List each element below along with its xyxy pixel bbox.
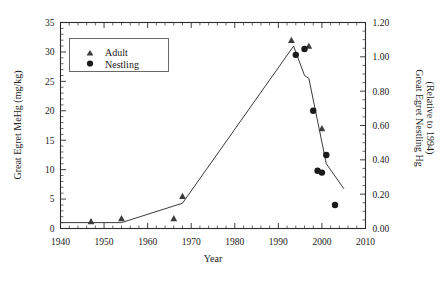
y-axis-right-ticklabels: 0.000.200.400.600.801.001.20 xyxy=(373,18,390,234)
y-axis-left-ticks xyxy=(61,23,67,229)
y-ticklabel: 20 xyxy=(45,106,55,116)
legend-nestling-circle-icon xyxy=(87,60,93,66)
y-ticklabel: 0 xyxy=(50,224,55,234)
data-point-nestling xyxy=(319,169,325,175)
chart-svg: 19401950196019701980199020002010 0510152… xyxy=(0,0,442,282)
x-ticklabel: 2010 xyxy=(356,237,375,247)
y-ticklabel: 25 xyxy=(45,77,55,87)
y2-ticklabel: 0.40 xyxy=(373,155,390,165)
y-ticklabel: 5 xyxy=(50,194,55,204)
y-axis-right-ticks xyxy=(360,23,366,229)
y-ticklabel: 30 xyxy=(45,47,55,57)
y2-ticklabel: 1.20 xyxy=(373,18,390,28)
x-ticklabel: 1980 xyxy=(225,237,244,247)
data-point-adult xyxy=(118,215,125,221)
data-point-nestling xyxy=(332,202,338,208)
data-point-adult xyxy=(319,125,326,131)
y2-ticklabel: 0.80 xyxy=(373,87,390,97)
chart-legend: Adult Nestling xyxy=(70,39,169,72)
x-ticklabel: 1990 xyxy=(269,237,288,247)
x-ticklabel: 1940 xyxy=(51,237,70,247)
y-axis-right-title-line2: (Relative to 1994) xyxy=(424,82,436,155)
x-ticklabel: 1960 xyxy=(138,237,157,247)
chart-figure: 19401950196019701980199020002010 0510152… xyxy=(0,0,442,282)
data-point-nestling xyxy=(310,108,316,114)
data-point-nestling xyxy=(323,152,329,158)
data-point-adult xyxy=(288,37,295,43)
data-point-nestling xyxy=(301,46,307,52)
data-point-adult xyxy=(170,215,177,221)
y2-ticklabel: 1.00 xyxy=(373,52,390,62)
y-axis-left-ticklabels: 05101520253035 xyxy=(45,18,55,234)
y-axis-right-title-line1: Great Egret Nestling Hg xyxy=(414,69,425,166)
legend-label-adult: Adult xyxy=(105,47,128,58)
x-axis-title: Year xyxy=(204,253,223,264)
x-ticklabel: 1970 xyxy=(182,237,201,247)
x-ticklabel: 2000 xyxy=(312,237,331,247)
x-axis-ticklabels: 19401950196019701980199020002010 xyxy=(51,237,375,247)
y-ticklabel: 10 xyxy=(45,165,55,175)
series-nestling-markers xyxy=(293,46,339,208)
y2-ticklabel: 0.60 xyxy=(373,121,390,131)
trend-line xyxy=(61,46,344,223)
legend-label-nestling: Nestling xyxy=(105,59,139,70)
y-ticklabel: 35 xyxy=(45,18,55,28)
data-point-adult xyxy=(88,218,95,224)
x-ticklabel: 1950 xyxy=(95,237,114,247)
data-point-adult xyxy=(179,193,186,199)
y-ticklabel: 15 xyxy=(45,136,55,146)
data-point-nestling xyxy=(293,52,299,58)
y2-ticklabel: 0.20 xyxy=(373,190,390,200)
y-axis-left-title: Great Egret MeHg (mg/kg) xyxy=(12,70,24,179)
y2-ticklabel: 0.00 xyxy=(373,224,390,234)
